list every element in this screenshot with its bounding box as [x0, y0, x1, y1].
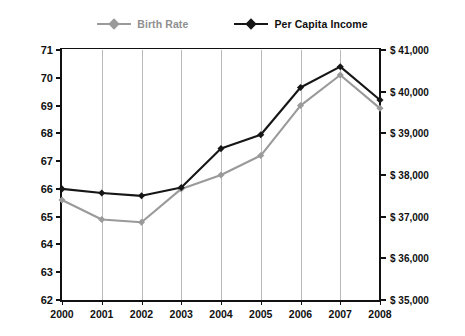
y-left-tick-label-67: 67 — [41, 155, 53, 167]
x-tick-label-2004: 2004 — [209, 308, 232, 320]
y-right-tick-label-40000: $ 40,000 — [390, 86, 429, 97]
y-left-tick-label-62: 62 — [41, 294, 53, 306]
x-tick-label-2007: 2007 — [329, 308, 352, 320]
y-right-tick-36000 — [380, 257, 386, 259]
x-tick-label-2006: 2006 — [289, 308, 312, 320]
x-tick-2007 — [340, 300, 341, 305]
x-tick-2005 — [261, 300, 262, 305]
y-right-tick-label-39000: $ 39,000 — [390, 128, 429, 139]
y-left-tick-label-69: 69 — [41, 100, 53, 112]
datapoint-birth-rate-2004[interactable] — [217, 171, 224, 178]
y-left-tick-label-66: 66 — [41, 183, 53, 195]
series-lines — [62, 50, 380, 300]
legend-item-per-capita-income[interactable]: Per Capita Income — [234, 18, 367, 30]
x-tick-2002 — [142, 300, 143, 305]
y-right-tick-label-38000: $ 38,000 — [390, 170, 429, 181]
legend-marker-per-capita-income-icon — [234, 18, 268, 30]
legend-marker-birth-rate-icon — [97, 18, 131, 30]
y-right-tick-label-41000: $ 41,000 — [390, 45, 429, 56]
y-right-tick-40000 — [380, 91, 386, 93]
y-right-tick-38000 — [380, 174, 386, 176]
y-left-tick-label-64: 64 — [41, 238, 53, 250]
datapoint-per-capita-income-2001[interactable] — [98, 190, 105, 197]
x-tick-label-2003: 2003 — [170, 308, 193, 320]
legend-label-per-capita-income: Per Capita Income — [274, 18, 367, 30]
y-left-tick-label-70: 70 — [41, 72, 53, 84]
legend-label-birth-rate: Birth Rate — [137, 18, 188, 30]
datapoint-per-capita-income-2002[interactable] — [138, 192, 145, 199]
x-tick-label-2000: 2000 — [50, 308, 73, 320]
y-right-tick-37000 — [380, 216, 386, 218]
y-left-tick-label-71: 71 — [41, 44, 53, 56]
x-tick-2003 — [181, 300, 182, 305]
x-tick-2008 — [380, 300, 381, 305]
legend-item-birth-rate[interactable]: Birth Rate — [97, 18, 188, 30]
x-tick-2001 — [102, 300, 103, 305]
x-tick-2006 — [301, 300, 302, 305]
y-right-tick-41000 — [380, 49, 386, 51]
dual-axis-line-chart: Birth Rate Per Capita Income Birth Rate … — [0, 0, 465, 336]
chart-legend: Birth Rate Per Capita Income — [0, 12, 465, 36]
y-axis-left-title: Birth Rate — [11, 0, 33, 22]
x-tick-label-2008: 2008 — [368, 308, 391, 320]
x-tick-2004 — [221, 300, 222, 305]
y-right-tick-label-35000: $ 35,000 — [390, 295, 429, 306]
y-right-tick-39000 — [380, 132, 386, 134]
y-left-tick-label-68: 68 — [41, 127, 53, 139]
x-tick-2000 — [62, 300, 63, 305]
x-tick-label-2001: 2001 — [90, 308, 113, 320]
datapoint-birth-rate-2001[interactable] — [98, 216, 105, 223]
x-tick-label-2002: 2002 — [130, 308, 153, 320]
y-right-tick-label-36000: $ 36,000 — [390, 253, 429, 264]
plot-border-top — [60, 48, 381, 49]
y-right-tick-label-37000: $ 37,000 — [390, 211, 429, 222]
y-left-tick-label-63: 63 — [41, 266, 53, 278]
plot-area: 62636465666768697071 $ 35,000$ 36,000$ 3… — [62, 50, 380, 300]
y-left-tick-label-65: 65 — [41, 211, 53, 223]
x-tick-label-2005: 2005 — [249, 308, 272, 320]
